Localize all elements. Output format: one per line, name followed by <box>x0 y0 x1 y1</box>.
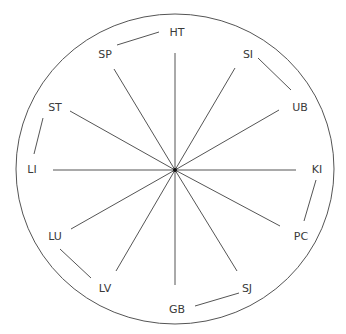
node-label-ht: HT <box>170 26 185 39</box>
node-label-st: ST <box>48 101 62 114</box>
node-label-sj: SJ <box>242 282 252 295</box>
node-label-ub: UB <box>292 101 308 114</box>
node-label-gb: GB <box>169 303 185 316</box>
node-label-li: LI <box>27 163 36 176</box>
spoke-ub <box>175 110 279 170</box>
node-label-lu: LU <box>48 230 62 243</box>
spoke-sp <box>114 69 175 170</box>
node-label-si: SI <box>243 48 253 61</box>
spoke-lv <box>116 170 175 271</box>
spoke-pc <box>175 170 280 226</box>
node-label-ki: KI <box>312 163 322 176</box>
node-label-pc: PC <box>294 230 309 243</box>
wheel-diagram: HTSIUBKIPCSJGBLVLULISTSP <box>0 0 346 334</box>
spoke-sj <box>175 170 237 271</box>
pair-line-lu-lv <box>60 249 91 278</box>
pair-line-ki-pc <box>304 180 316 221</box>
pair-line-si-ub <box>258 58 291 90</box>
pair-line-st-li <box>34 118 43 154</box>
pair-line-gb-sj <box>195 293 239 306</box>
spoke-si <box>175 68 235 170</box>
pair-line-sp-ht <box>117 32 159 45</box>
node-label-sp: SP <box>98 48 112 61</box>
center-hub <box>173 168 177 172</box>
node-label-lv: LV <box>99 282 112 295</box>
spoke-st <box>70 111 175 170</box>
spoke-lu <box>71 170 175 229</box>
